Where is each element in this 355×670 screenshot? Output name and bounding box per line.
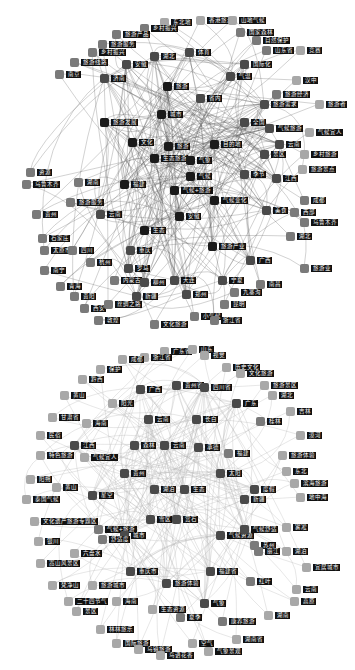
graph-node: 贵州 (32, 210, 58, 219)
node-square-icon (88, 581, 97, 590)
node-label: 生态旅游 (161, 155, 188, 162)
node-label: 四川省 (211, 384, 232, 391)
node-label: 九寨沟 (241, 289, 262, 296)
graph-node: 云南 (96, 210, 122, 219)
graph-node: 黔西 (78, 375, 104, 384)
node-square-icon (204, 647, 213, 656)
graph-node: 湖北 (286, 232, 312, 241)
node-square-icon (232, 399, 241, 408)
node-label: 气候宜人 (91, 454, 118, 461)
node-label: 气象 (197, 157, 212, 164)
node-square-icon (206, 567, 215, 576)
node-square-icon (26, 168, 35, 177)
node-label: 东北 (293, 468, 308, 475)
graph-node: 森林 (130, 441, 156, 450)
node-label: 美食 (273, 207, 288, 214)
node-square-icon (230, 288, 239, 297)
node-square-icon (66, 198, 75, 207)
node-label: 宜居城市 (313, 564, 340, 571)
graph-node: 旅游体验 (162, 579, 200, 588)
node-label: 国际化 (251, 61, 272, 68)
graph-node: 四川省 (200, 383, 232, 392)
node-square-icon (96, 365, 105, 374)
node-label: 文化旅游 (161, 321, 188, 328)
graph-node: 南宁 (40, 266, 66, 275)
node-label: 南宁 (51, 267, 66, 274)
graph-node: 气候舒适 (240, 525, 278, 534)
node-label: 旅游业 (311, 265, 332, 272)
graph-node: 罗马 (124, 264, 150, 273)
node-square-icon (150, 52, 159, 61)
graph-node: 鸟语花香 (156, 651, 194, 660)
graph-node: 乌鲁木齐 (300, 218, 338, 227)
node-label: 生态 (191, 486, 206, 493)
node-square-icon (72, 607, 81, 616)
graph-node: 旅游发展 (100, 118, 138, 127)
graph-node: 宜居城市 (302, 563, 340, 572)
node-square-icon (185, 48, 194, 57)
graph-node: 福建省 (206, 567, 238, 576)
node-square-icon (120, 469, 129, 478)
node-label: 黔西 (89, 376, 104, 383)
node-label: 气温 (237, 73, 252, 80)
node-label: 贵阳 (81, 293, 96, 300)
graph-node: 山东省 (262, 46, 294, 55)
node-square-icon (216, 531, 225, 540)
node-label: 阳朔 (37, 476, 52, 483)
node-square-icon (222, 363, 231, 372)
node-square-icon (224, 449, 233, 458)
node-square-icon (96, 210, 105, 219)
node-label: 资源 (37, 169, 52, 176)
graph-node: 二十四节气 (64, 597, 108, 606)
graph-node: 旅游产品 (112, 30, 150, 39)
graph-node: 赏石 (172, 515, 198, 524)
node-square-icon (130, 441, 139, 450)
node-label: 承德 (205, 444, 220, 451)
node-square-icon (256, 417, 265, 426)
node-square-icon (128, 138, 137, 147)
node-label: 乌鲁木齐 (311, 219, 338, 226)
node-label: 汉中 (303, 77, 318, 84)
node-label: 文化旅游 (247, 370, 274, 377)
node-label: 景区 (83, 608, 98, 615)
node-square-icon (282, 467, 291, 476)
node-label: 旅游发展 (111, 119, 138, 126)
graph-node: 省内 (196, 94, 222, 103)
graph-node: 长白 (192, 415, 218, 424)
edge (30, 56, 154, 172)
graph-node: 气温 (226, 72, 252, 81)
node-label: 旅游线路 (81, 59, 108, 66)
node-square-icon (200, 599, 209, 608)
node-square-icon (272, 174, 281, 183)
node-label: 成都 (311, 197, 326, 204)
graph-node: 旅游景点 (298, 165, 336, 174)
node-square-icon (70, 58, 79, 67)
node-square-icon (262, 46, 271, 55)
graph-node: 福建 (120, 180, 146, 189)
node-square-icon (172, 381, 181, 390)
graph-node: 旅游 (164, 142, 190, 151)
node-square-icon (286, 232, 295, 241)
node-square-icon (134, 645, 143, 654)
node-label: 重庆 (137, 247, 152, 254)
node-label: 旅游体验 (173, 580, 200, 587)
node-label: 气候变化 (221, 197, 248, 204)
graph-node: 江西 (272, 174, 298, 183)
node-square-icon (140, 226, 149, 235)
node-label: 生态 (151, 227, 166, 234)
node-label: 乡村振兴 (151, 25, 178, 32)
node-label: 南昌 (267, 281, 282, 288)
node-square-icon (110, 276, 119, 285)
node-square-icon (26, 475, 35, 484)
node-label: 湖北 (297, 233, 312, 240)
graph-node: 文化遗产旅游专题区 (30, 517, 98, 526)
node-label: 气候旅游 (276, 125, 303, 132)
node-square-icon (182, 290, 191, 299)
node-label: 昆明 (231, 301, 246, 308)
node-square-icon (216, 469, 225, 478)
node-label: 柳州 (151, 279, 166, 286)
graph-node: 安徽 (122, 60, 148, 69)
node-label: 赏石 (183, 516, 198, 523)
node-label: 省内 (207, 95, 222, 102)
graph-node: 旅游体验 (278, 451, 316, 460)
